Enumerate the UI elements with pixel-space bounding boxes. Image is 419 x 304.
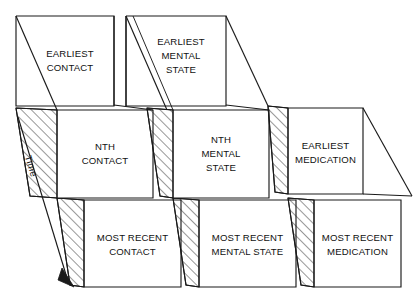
earliest-mental-state-label-line3: STATE [166, 64, 196, 75]
earliest-medication-label-line1: EARLIEST [302, 140, 350, 151]
earliest-contact-label-line2: CONTACT [47, 62, 94, 73]
most-recent-mental-state-label-line1: MOST RECENT [212, 232, 283, 243]
box-most-recent-medication: MOST RECENT MEDICATION [288, 198, 401, 287]
most-recent-contact-label-line1: MOST RECENT [97, 232, 168, 243]
nth-contact-label-line2: CONTACT [82, 155, 129, 166]
box-nth-contact: NTH CONTACT [16, 105, 153, 198]
box-earliest-contact: EARLIEST CONTACT [16, 16, 114, 110]
box-earliest-mental-state: EARLIEST MENTAL STATE [126, 16, 268, 110]
box-earliest-medication: EARLIEST MEDICATION [268, 106, 412, 196]
nth-mental-state-label-line1: NTH [211, 134, 231, 145]
box-most-recent-mental-state: MOST RECENT MENTAL STATE [173, 198, 296, 287]
earliest-medication-side-face [268, 106, 288, 194]
box-nth-mental-state: NTH MENTAL STATE [147, 105, 269, 198]
nth-contact-side-face [16, 108, 57, 198]
earliest-medication-label-line2: MEDICATION [295, 154, 356, 165]
most-recent-contact-label-line2: CONTACT [109, 246, 156, 257]
box-most-recent-contact: MOST RECENT CONTACT [57, 198, 181, 287]
most-recent-mental-state-label-line2: MENTAL STATE [212, 246, 284, 257]
earliest-mental-state-label-line2: MENTAL [161, 50, 201, 61]
earliest-mental-state-label-line1: EARLIEST [157, 36, 205, 47]
earliest-contact-label-line1: EARLIEST [46, 48, 94, 59]
nth-mental-state-label-line3: STATE [206, 162, 236, 173]
most-recent-medication-label-line1: MOST RECENT [322, 232, 393, 243]
diagram-canvas: MOST RECENT CONTACT MOST RECENT MENTAL S… [0, 0, 419, 304]
nth-contact-label-line1: NTH [95, 141, 115, 152]
stacked-box-diagram: MOST RECENT CONTACT MOST RECENT MENTAL S… [0, 0, 419, 304]
nth-mental-state-label-line2: MENTAL [201, 148, 241, 159]
most-recent-medication-label-line2: MEDICATION [327, 246, 388, 257]
